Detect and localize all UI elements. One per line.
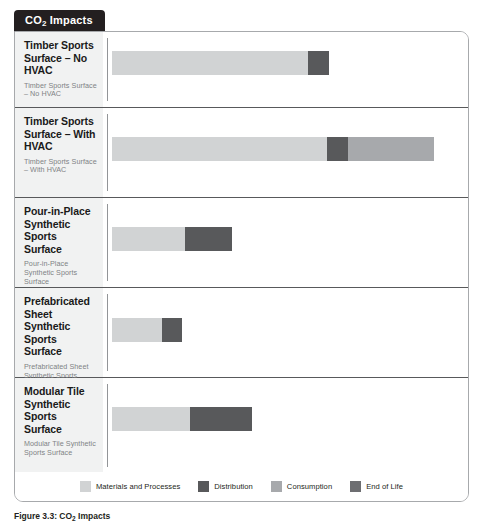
- chart-row: Modular Tile Synthetic Sports SurfaceMod…: [15, 378, 468, 474]
- bar-segment: [112, 51, 308, 75]
- legend-label: End of Life: [366, 482, 403, 491]
- row-label-cell: Modular Tile Synthetic Sports SurfaceMod…: [15, 378, 103, 473]
- legend-label: Distribution: [214, 482, 253, 491]
- row-plot-area: [103, 378, 468, 473]
- bar-segment: [112, 407, 190, 431]
- row-label-cell: Timber Sports Surface – With HVACTimber …: [15, 108, 103, 197]
- tab-co2-impacts[interactable]: CO2 Impacts: [14, 10, 105, 33]
- chart-row: Pour-in-Place Synthetic Sports SurfacePo…: [15, 198, 468, 288]
- legend-item[interactable]: End of Life: [350, 481, 403, 492]
- bar-segment: [327, 137, 348, 161]
- legend-label: Consumption: [287, 482, 332, 491]
- bar-segment: [348, 137, 434, 161]
- row-title: Timber Sports Surface – With HVAC: [24, 115, 97, 153]
- tab-label-subscript: 2: [42, 19, 47, 28]
- caption-suffix: Impacts: [76, 511, 111, 521]
- row-title: Pour-in-Place Synthetic Sports Surface: [24, 205, 97, 255]
- bar-segment: [112, 318, 162, 342]
- row-title: Prefabricated Sheet Synthetic Sports Sur…: [24, 295, 97, 358]
- chart-row: Timber Sports Surface – With HVACTimber …: [15, 108, 468, 198]
- legend-item[interactable]: Consumption: [271, 481, 332, 492]
- row-title: Modular Tile Synthetic Sports Surface: [24, 385, 97, 435]
- legend-swatch-icon: [271, 481, 282, 492]
- row-subtitle: Timber Sports Surface – With HVAC: [24, 158, 97, 175]
- stacked-bar: [112, 137, 434, 161]
- legend-item[interactable]: Distribution: [198, 481, 253, 492]
- caption-subscript: 2: [72, 515, 76, 521]
- row-plot-area: [103, 198, 468, 287]
- row-plot-area: [103, 288, 468, 377]
- row-plot-area: [103, 32, 468, 107]
- row-label-cell: Pour-in-Place Synthetic Sports SurfacePo…: [15, 198, 103, 287]
- stacked-bar: [112, 51, 329, 75]
- chart-row: Prefabricated Sheet Synthetic Sports Sur…: [15, 288, 468, 378]
- legend-item[interactable]: Materials and Processes: [80, 481, 180, 492]
- caption-prefix: Figure 3.3: CO: [14, 511, 72, 521]
- stacked-bar: [112, 407, 252, 431]
- axis-line: [107, 384, 108, 467]
- bar-segment: [162, 318, 182, 342]
- row-subtitle: Timber Sports Surface – No HVAC: [24, 82, 97, 99]
- chart-legend: Materials and ProcessesDistributionConsu…: [15, 472, 468, 501]
- row-label-cell: Timber Sports Surface – No HVACTimber Sp…: [15, 32, 103, 107]
- row-title: Timber Sports Surface – No HVAC: [24, 39, 97, 77]
- tab-bar: CO2 Impacts: [14, 10, 105, 32]
- row-label-cell: Prefabricated Sheet Synthetic Sports Sur…: [15, 288, 103, 377]
- bar-segment: [190, 407, 252, 431]
- row-subtitle: Modular Tile Synthetic Sports Surface: [24, 440, 97, 457]
- bar-segment: [112, 227, 185, 251]
- stacked-bar: [112, 227, 232, 251]
- legend-label: Materials and Processes: [96, 482, 180, 491]
- legend-swatch-icon: [80, 481, 91, 492]
- stacked-bar: [112, 318, 182, 342]
- legend-swatch-icon: [198, 481, 209, 492]
- tab-label-suffix: Impacts: [47, 14, 93, 26]
- row-plot-area: [103, 108, 468, 197]
- chart-rows: Timber Sports Surface – No HVACTimber Sp…: [15, 32, 468, 501]
- axis-line: [107, 204, 108, 281]
- figure-caption: Figure 3.3: CO2 Impacts: [14, 511, 110, 521]
- axis-line: [107, 294, 108, 371]
- bar-segment: [308, 51, 329, 75]
- chart-panel: Timber Sports Surface – No HVACTimber Sp…: [14, 31, 469, 502]
- axis-line: [107, 114, 108, 191]
- tab-label-prefix: CO: [25, 14, 42, 26]
- bar-segment: [185, 227, 232, 251]
- axis-line: [107, 38, 108, 101]
- legend-swatch-icon: [350, 481, 361, 492]
- bar-segment: [112, 137, 327, 161]
- chart-row: Timber Sports Surface – No HVACTimber Sp…: [15, 32, 468, 108]
- row-subtitle: Pour-in-Place Synthetic Sports Surface: [24, 260, 97, 286]
